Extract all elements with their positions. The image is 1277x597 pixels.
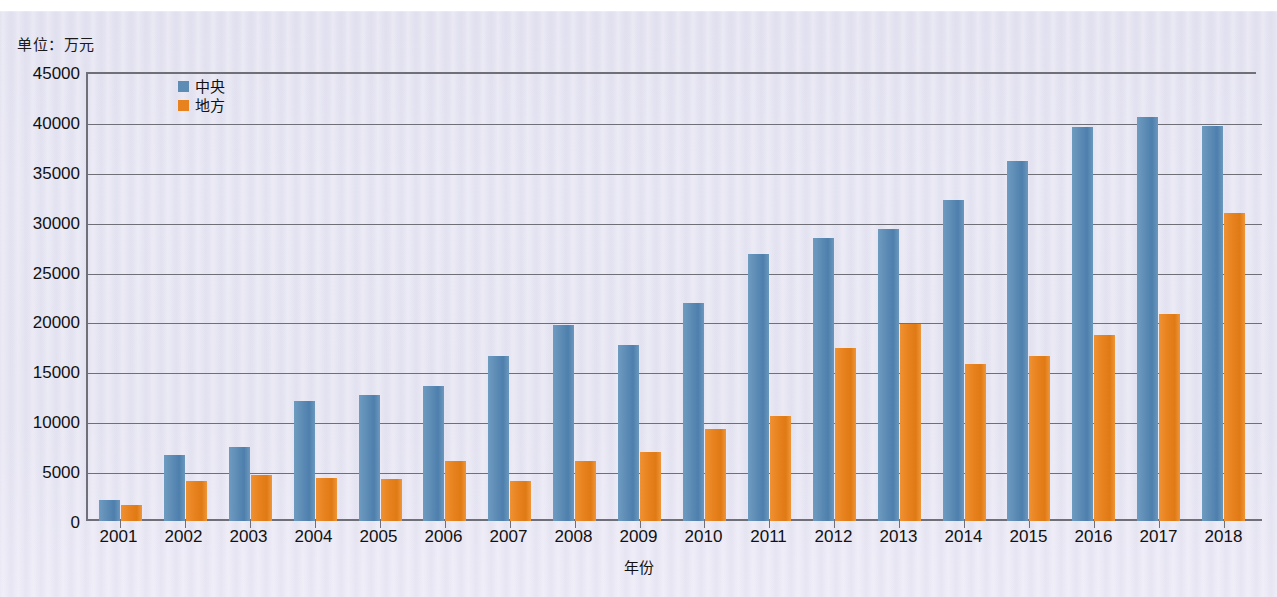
bar-local <box>835 348 856 521</box>
x-axis-tick-label: 2013 <box>866 527 931 553</box>
x-axis-tick-label: 2007 <box>476 527 541 553</box>
x-axis-tick-label: 2005 <box>346 527 411 553</box>
bar-group <box>672 74 737 521</box>
x-axis-tick-label: 2004 <box>281 527 346 553</box>
unit-label: 单位：万元 <box>17 33 95 54</box>
x-axis-tick-label: 2011 <box>736 527 801 553</box>
bar-group <box>542 74 607 521</box>
bar-central <box>1007 161 1028 521</box>
x-axis-tick-label: 2015 <box>996 527 1061 553</box>
x-axis-tick-label: 2003 <box>216 527 281 553</box>
bar-group <box>477 74 542 521</box>
bar-local <box>445 461 466 521</box>
bar-local <box>965 364 986 521</box>
x-axis-tick-label: 2016 <box>1061 527 1126 553</box>
bar-group <box>412 74 477 521</box>
bar-central <box>748 254 769 521</box>
bar-local <box>510 481 531 521</box>
x-axis-tick-label: 2002 <box>151 527 216 553</box>
bar-local <box>1159 314 1180 521</box>
y-axis-tick-label: 15000 <box>4 363 80 383</box>
bar-group <box>218 74 283 521</box>
bar-group <box>607 74 672 521</box>
bar-central <box>1137 117 1158 521</box>
bar-group <box>737 74 802 521</box>
legend-swatch-icon <box>178 81 189 92</box>
y-axis-tick-label: 10000 <box>4 413 80 433</box>
y-axis-tick-label: 40000 <box>4 114 80 134</box>
bar-group <box>1191 74 1256 521</box>
x-axis-tick-label: 2018 <box>1191 527 1256 553</box>
y-axis-tick-label: 0 <box>4 513 80 533</box>
x-axis-tick-label: 2008 <box>541 527 606 553</box>
x-axis-tick-label: 2014 <box>931 527 996 553</box>
bar-central <box>1202 126 1223 521</box>
chart-legend: 中央地方 <box>178 77 225 115</box>
bar-central <box>99 500 120 521</box>
y-axis-tick-label: 20000 <box>4 313 80 333</box>
bar-group <box>283 74 348 521</box>
y-axis-tick-label: 45000 <box>4 64 80 84</box>
y-axis-tick-label: 5000 <box>4 463 80 483</box>
x-axis-tick-label: 2012 <box>801 527 866 553</box>
bar-central <box>813 238 834 521</box>
legend-item-label: 中央 <box>195 77 225 96</box>
bar-local <box>770 416 791 521</box>
bar-local <box>640 452 661 521</box>
bar-central <box>359 395 380 521</box>
bar-groups <box>88 74 1256 521</box>
bar-central <box>878 229 899 521</box>
bar-local <box>1224 213 1245 521</box>
bar-central <box>1072 127 1093 521</box>
bar-central <box>164 455 185 521</box>
bar-central <box>488 356 509 521</box>
legend-swatch-icon <box>178 100 189 111</box>
legend-item-local: 地方 <box>178 96 225 115</box>
bar-local <box>575 461 596 521</box>
legend-item-label: 地方 <box>195 96 225 115</box>
bar-local <box>705 429 726 521</box>
y-axis-tick-label: 25000 <box>4 264 80 284</box>
bar-local <box>251 475 272 521</box>
bar-group <box>802 74 867 521</box>
bar-central <box>618 345 639 521</box>
bar-group <box>867 74 932 521</box>
bar-central <box>229 447 250 521</box>
x-axis-tick-labels: 2001200220032004200520062007200820092010… <box>86 527 1256 553</box>
y-axis-tick-label: 30000 <box>4 214 80 234</box>
bar-group <box>1126 74 1191 521</box>
y-axis-tick-label: 35000 <box>4 164 80 184</box>
bar-local <box>316 478 337 521</box>
bar-local <box>1029 356 1050 521</box>
x-axis-tick-label: 2010 <box>671 527 736 553</box>
bar-central <box>553 325 574 521</box>
bar-local <box>900 324 921 521</box>
bar-local <box>1094 335 1115 521</box>
bar-central <box>683 303 704 522</box>
bar-group <box>1061 74 1126 521</box>
bar-group <box>932 74 997 521</box>
bar-central <box>294 401 315 521</box>
bar-group <box>348 74 413 521</box>
bar-central <box>423 386 444 521</box>
legend-item-central: 中央 <box>178 77 225 96</box>
x-axis-tick-label: 2017 <box>1126 527 1191 553</box>
chart-plot-area: 4500040000350003000025000200001500010000… <box>86 72 1256 521</box>
bar-local <box>121 505 142 521</box>
x-axis-title: 年份 <box>0 556 1277 577</box>
bar-local <box>381 479 402 521</box>
bar-group <box>153 74 218 521</box>
bar-group <box>88 74 153 521</box>
x-axis-tick-label: 2009 <box>606 527 671 553</box>
x-axis-tick-label: 2006 <box>411 527 476 553</box>
bar-local <box>186 481 207 521</box>
bar-group <box>996 74 1061 521</box>
bar-central <box>943 200 964 521</box>
x-axis-tick-label: 2001 <box>86 527 151 553</box>
